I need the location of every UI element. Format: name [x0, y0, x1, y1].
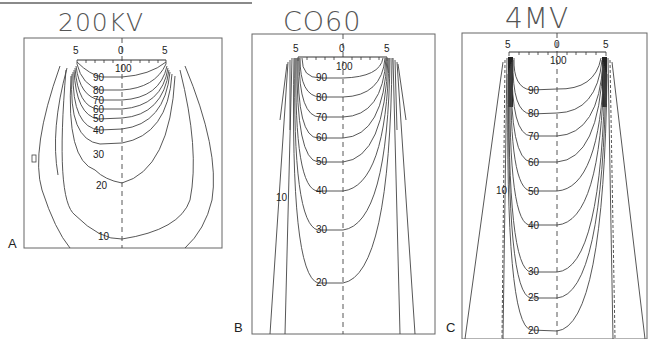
- panel-b-isodose-diagram: 5 0 5 100 90 80 70 60 50 40 30 20 10: [230, 0, 445, 339]
- svg-text:70: 70: [528, 131, 540, 142]
- svg-text:10: 10: [276, 192, 288, 203]
- scale-center: 0: [118, 45, 124, 56]
- svg-text:50: 50: [93, 113, 105, 124]
- scale-center: 0: [339, 43, 345, 54]
- svg-text:50: 50: [528, 186, 540, 197]
- svg-text:10: 10: [98, 231, 110, 242]
- svg-text:40: 40: [93, 125, 105, 136]
- svg-text:60: 60: [316, 132, 328, 143]
- svg-text:100: 100: [550, 55, 567, 66]
- svg-text:40: 40: [316, 185, 328, 196]
- svg-text:30: 30: [528, 266, 540, 277]
- svg-text:50: 50: [316, 156, 328, 167]
- svg-text:90: 90: [93, 72, 105, 83]
- scale-center: 0: [554, 39, 560, 50]
- svg-text:20: 20: [528, 325, 540, 336]
- svg-text:30: 30: [316, 224, 328, 235]
- svg-text:100: 100: [336, 61, 353, 72]
- scale-left: 5: [73, 45, 79, 56]
- svg-text:90: 90: [528, 85, 540, 96]
- panel-a-isodose-diagram: 5 0 5 100 90 80 70 60 50 40 30 20 10: [0, 0, 230, 260]
- scale-left: 5: [293, 43, 299, 54]
- svg-text:80: 80: [528, 108, 540, 119]
- scale-right: 5: [603, 39, 609, 50]
- svg-text:60: 60: [528, 157, 540, 168]
- panel-c-isodose-diagram: 5 0 5 100 90 80 70 60 50 40 30 25 20 10: [445, 0, 652, 339]
- svg-text:20: 20: [96, 180, 108, 191]
- svg-text:90: 90: [316, 72, 328, 83]
- svg-text:80: 80: [316, 92, 328, 103]
- svg-text:20: 20: [316, 277, 328, 288]
- scale-left: 5: [505, 39, 511, 50]
- scale-right: 5: [384, 43, 390, 54]
- svg-text:10: 10: [496, 185, 508, 196]
- scale-right: 5: [162, 45, 168, 56]
- svg-text:100: 100: [115, 63, 132, 74]
- svg-text:70: 70: [316, 112, 328, 123]
- svg-text:40: 40: [528, 220, 540, 231]
- svg-text:25: 25: [528, 292, 540, 303]
- svg-text:30: 30: [93, 149, 105, 160]
